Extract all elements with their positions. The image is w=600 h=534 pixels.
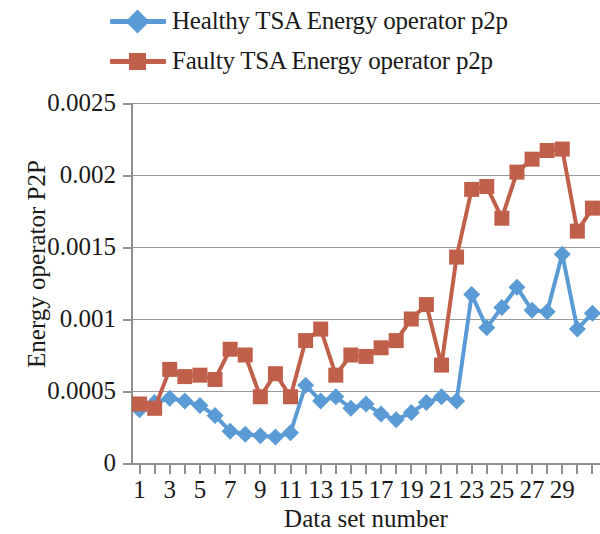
data-point-square-icon [555, 142, 570, 157]
data-point-square-icon [479, 179, 494, 194]
series-1 [132, 142, 600, 416]
data-point-square-icon [192, 368, 207, 383]
x-tick [184, 465, 186, 474]
data-point-diamond-icon [554, 246, 571, 263]
x-tick [290, 465, 292, 474]
x-tick [244, 465, 246, 474]
x-tick [516, 465, 518, 474]
y-tick-label: 0.0005 [47, 378, 116, 403]
x-tick-label: 29 [542, 477, 582, 503]
y-tick-label: 0.0025 [47, 90, 116, 115]
x-tick [199, 465, 201, 474]
data-point-square-icon [223, 342, 238, 357]
x-tick [380, 465, 382, 474]
data-point-diamond-icon [267, 429, 284, 446]
x-tick [395, 465, 397, 474]
x-tick [561, 465, 563, 474]
y-tick-label: 0.0015 [47, 234, 116, 259]
x-tick [365, 465, 367, 474]
x-tick [305, 465, 307, 474]
series-layer [132, 103, 600, 463]
data-point-square-icon [585, 201, 600, 216]
data-point-square-icon [509, 165, 524, 180]
series-line [140, 149, 593, 408]
plot-area [132, 103, 600, 463]
x-tick [471, 465, 473, 474]
y-tick-label: 0 [104, 450, 117, 475]
data-point-square-icon [253, 389, 268, 404]
x-tick [320, 465, 322, 474]
data-point-square-icon [449, 250, 464, 265]
data-point-square-icon [494, 211, 509, 226]
data-point-square-icon [389, 333, 404, 348]
data-point-square-icon [404, 312, 419, 327]
data-point-square-icon [177, 369, 192, 384]
data-point-square-icon [343, 348, 358, 363]
data-point-square-icon [132, 396, 147, 411]
data-point-diamond-icon [463, 286, 480, 303]
y-tick [123, 319, 132, 321]
data-point-diamond-icon [282, 424, 299, 441]
data-point-diamond-icon [388, 411, 405, 428]
series-0 [132, 246, 600, 446]
data-point-diamond-icon [539, 303, 556, 320]
x-tick [274, 465, 276, 474]
data-point-square-icon [268, 366, 283, 381]
y-tick [123, 175, 132, 177]
data-point-diamond-icon [237, 426, 254, 443]
data-point-diamond-icon [433, 388, 450, 405]
data-point-diamond-icon [161, 390, 178, 407]
data-point-square-icon [359, 349, 374, 364]
y-tick [123, 463, 132, 465]
data-point-diamond-icon [252, 427, 269, 444]
data-point-square-icon [525, 152, 540, 167]
chart-canvas: Energy operator P2P Data set number 00.0… [0, 0, 600, 534]
y-tick [123, 391, 132, 393]
x-tick [229, 465, 231, 474]
x-tick [410, 465, 412, 474]
data-point-square-icon [419, 297, 434, 312]
data-point-square-icon [464, 182, 479, 197]
x-tick [440, 465, 442, 474]
data-point-square-icon [283, 389, 298, 404]
data-point-square-icon [328, 368, 343, 383]
x-tick [591, 465, 593, 474]
data-point-square-icon [147, 401, 162, 416]
x-tick [169, 465, 171, 474]
x-axis-title: Data set number [132, 505, 600, 533]
data-point-square-icon [374, 340, 389, 355]
x-tick [154, 465, 156, 474]
x-tick [139, 465, 141, 474]
x-tick [501, 465, 503, 474]
x-tick [486, 465, 488, 474]
data-point-square-icon [434, 358, 449, 373]
y-tick-label: 0.001 [60, 306, 116, 331]
data-point-square-icon [162, 362, 177, 377]
x-tick [531, 465, 533, 474]
y-tick [123, 247, 132, 249]
data-point-diamond-icon [448, 393, 465, 410]
data-point-square-icon [208, 372, 223, 387]
x-tick [456, 465, 458, 474]
x-tick [335, 465, 337, 474]
x-tick [425, 465, 427, 474]
x-tick [214, 465, 216, 474]
data-point-square-icon [540, 143, 555, 158]
x-tick [546, 465, 548, 474]
x-tick [259, 465, 261, 474]
data-point-square-icon [570, 224, 585, 239]
data-point-square-icon [313, 322, 328, 337]
x-tick [576, 465, 578, 474]
data-point-square-icon [298, 333, 313, 348]
y-tick-label: 0.002 [60, 162, 116, 187]
x-tick [350, 465, 352, 474]
y-tick [123, 103, 132, 105]
data-point-diamond-icon [176, 393, 193, 410]
data-point-square-icon [238, 348, 253, 363]
